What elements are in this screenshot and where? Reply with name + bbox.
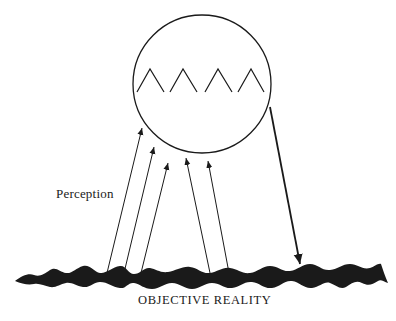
perception-arrow (208, 161, 229, 273)
perception-arrow (141, 163, 168, 273)
perception-arrows (107, 128, 229, 273)
objective-reality-label: OBJECTIVE REALITY (138, 293, 271, 308)
perception-arrow (186, 158, 210, 273)
objective-reality-band (15, 264, 388, 289)
perception-diagram (0, 0, 396, 321)
mental-model-zigzag (137, 69, 264, 92)
perception-arrow (124, 147, 154, 273)
mind-circle (133, 15, 271, 153)
action-arrow (270, 107, 300, 264)
perception-label: Perception (56, 186, 114, 202)
